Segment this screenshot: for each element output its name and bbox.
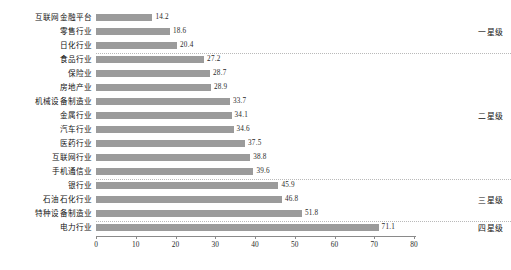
bar [96,126,234,133]
tier-label-one_star: 一星级 [478,27,503,38]
bar-row: 医药行业37.5 [96,137,414,151]
x-tick-label: 60 [331,240,338,250]
x-axis-line [96,236,416,237]
x-tick [96,236,97,239]
tier-label-four_star: 四星级 [478,223,503,234]
bar-value-label: 45.9 [281,179,294,192]
bar-value-label: 33.7 [233,95,246,108]
bar-row: 互联网行业38.8 [96,151,414,165]
bar-row: 手机通信业39.6 [96,165,414,179]
x-tick [176,236,177,239]
x-tick [136,236,137,239]
x-tick [215,236,216,239]
bar-value-label: 18.6 [173,25,186,38]
bar-row: 零售行业18.6 [96,25,414,39]
category-label: 零售行业 [60,25,92,38]
bar-value-label: 39.6 [256,165,269,178]
bar-row: 机械设备制造业33.7 [96,95,414,109]
tier-separator [96,53,511,54]
bar-row: 汽车行业34.6 [96,123,414,137]
category-label: 机械设备制造业 [35,95,92,108]
bar-row: 食品行业27.2 [96,53,414,67]
x-tick-label: 80 [410,240,417,250]
bar [96,154,250,161]
bar-value-label: 51.8 [305,207,318,220]
category-label: 保险业 [68,67,92,80]
bar-row: 特种设备制造业51.8 [96,207,414,221]
bar-value-label: 34.1 [235,109,248,122]
bar-row: 电力行业71.1 [96,221,414,235]
bar-value-label: 27.2 [207,53,220,66]
x-tick-label: 30 [212,240,219,250]
x-tick-label: 0 [94,240,98,250]
tier-separator [96,179,511,180]
category-label: 互联网金融平台 [35,11,92,24]
bar-row: 石油石化行业46.8 [96,193,414,207]
bar-value-label: 34.6 [237,123,250,136]
bar-value-label: 28.7 [213,67,226,80]
category-label: 石油石化行业 [43,193,92,206]
x-tick [255,236,256,239]
bar-row: 房地产业28.9 [96,81,414,95]
x-tick-label: 20 [172,240,179,250]
category-label: 金属行业 [60,109,92,122]
category-label: 电力行业 [60,221,92,234]
category-label: 银行业 [68,179,92,192]
bar [96,112,232,119]
category-label: 医药行业 [60,137,92,150]
bar [96,98,230,105]
category-label: 汽车行业 [60,123,92,136]
bar-value-label: 71.1 [382,221,395,234]
bar-value-label: 38.8 [253,151,266,164]
x-tick-label: 40 [251,240,258,250]
bar-value-label: 20.4 [180,39,193,52]
tier-label-three_star: 三星级 [478,195,503,206]
x-tick [374,236,375,239]
bar-row: 金属行业34.1 [96,109,414,123]
bar [96,14,152,21]
bar-row: 保险业28.7 [96,67,414,81]
bar [96,28,170,35]
bar [96,56,204,63]
plot-area: 互联网金融平台14.2零售行业18.6日化行业20.4食品行业27.2保险业28… [96,11,414,235]
bar [96,182,278,189]
category-label: 手机通信业 [52,165,93,178]
bar-row: 银行业45.9 [96,179,414,193]
bar [96,42,177,49]
bar [96,140,245,147]
tier-label-two_star: 二星级 [478,111,503,122]
category-label: 互联网行业 [52,151,93,164]
x-tick-label: 50 [291,240,298,250]
tier-separator [96,221,511,222]
x-tick-label: 70 [371,240,378,250]
bar [96,196,282,203]
x-tick-label: 10 [132,240,139,250]
category-label: 房地产业 [60,81,92,94]
category-label: 日化行业 [60,39,92,52]
bar-value-label: 37.5 [248,137,261,150]
bar [96,70,210,77]
bar [96,210,302,217]
bar [96,224,379,231]
x-tick [295,236,296,239]
bar-value-label: 28.9 [214,81,227,94]
x-tick [414,236,415,239]
bar-value-label: 46.8 [285,193,298,206]
horizontal-bar-chart: 互联网金融平台14.2零售行业18.6日化行业20.4食品行业27.2保险业28… [0,0,511,270]
category-label: 食品行业 [60,53,92,66]
bar-value-label: 14.2 [155,11,168,24]
category-label: 特种设备制造业 [35,207,92,220]
bar [96,84,211,91]
x-tick [335,236,336,239]
bar-row: 日化行业20.4 [96,39,414,53]
bar-row: 互联网金融平台14.2 [96,11,414,25]
bar [96,168,253,175]
